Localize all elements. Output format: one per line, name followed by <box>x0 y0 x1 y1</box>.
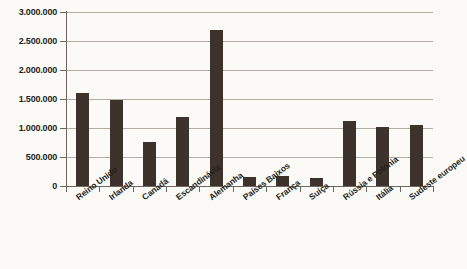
y-axis-tick-label: 1.000.000 <box>19 123 57 133</box>
y-axis-tick <box>60 157 67 158</box>
x-axis-tick <box>99 187 100 192</box>
bar <box>310 178 323 186</box>
bar <box>143 142 156 186</box>
bar <box>376 127 389 186</box>
x-axis-tick <box>166 187 167 192</box>
y-axis-tick-label: 1.500.000 <box>19 94 57 104</box>
y-axis-tick-label: 2.500.000 <box>19 36 57 46</box>
bar <box>243 177 256 186</box>
y-axis-tick <box>60 99 67 100</box>
bar <box>276 176 289 186</box>
x-axis-line <box>66 186 434 187</box>
y-axis-tick-label: 0 <box>52 181 57 191</box>
grid-line <box>66 41 433 42</box>
y-axis-tick <box>60 70 67 71</box>
y-axis-tick <box>60 41 67 42</box>
x-axis-tick <box>233 187 234 192</box>
plot-area <box>66 12 433 186</box>
bar <box>343 121 356 186</box>
x-axis-tick <box>400 187 401 192</box>
y-axis-tick-label: 3.000.000 <box>19 7 57 17</box>
x-axis-tick <box>366 187 367 192</box>
x-axis-tick <box>433 187 434 192</box>
y-axis-labels: 0500.0001.000.0001.500.0002.000.0002.500… <box>0 0 57 269</box>
bar <box>176 117 189 186</box>
x-axis-tick <box>266 187 267 192</box>
bar <box>210 30 223 186</box>
y-axis-tick <box>60 128 67 129</box>
x-axis-tick <box>199 187 200 192</box>
x-axis-tick <box>333 187 334 192</box>
y-axis-tick <box>60 12 67 13</box>
bar <box>410 125 423 186</box>
bar <box>110 100 123 186</box>
x-axis-tick <box>66 187 67 192</box>
x-axis-tick <box>300 187 301 192</box>
y-axis-tick-label: 500.000 <box>26 152 57 162</box>
bar <box>76 93 89 186</box>
grid-line <box>66 12 433 13</box>
grid-line <box>66 70 433 71</box>
x-axis-tick <box>133 187 134 192</box>
y-axis-tick-label: 2.000.000 <box>19 65 57 75</box>
